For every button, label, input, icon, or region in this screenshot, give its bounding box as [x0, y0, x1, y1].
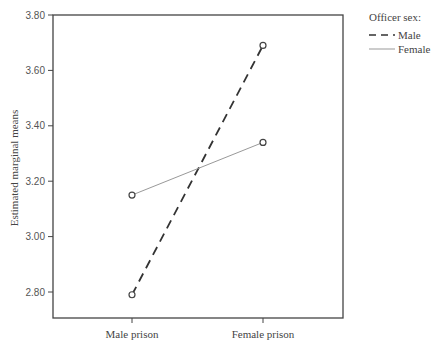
series-male — [129, 42, 266, 297]
y-tick-label: 2.80 — [26, 287, 46, 298]
y-tick-label: 3.60 — [26, 65, 46, 76]
legend-title: Officer sex: — [369, 11, 421, 23]
interaction-line-chart: 2.803.003.203.403.603.80 Male prisonFema… — [0, 0, 443, 354]
legend-female-label: Female — [398, 43, 430, 55]
series-line — [132, 142, 263, 195]
legend-male-label: Male — [398, 29, 421, 41]
data-point-marker — [260, 42, 266, 48]
plot-border — [53, 15, 343, 318]
y-tick-label: 3.20 — [26, 176, 46, 187]
legend: Officer sex: Male Female — [369, 11, 430, 55]
plot-frame — [53, 15, 343, 318]
y-tick-label: 3.80 — [26, 10, 46, 21]
series-layer — [129, 42, 266, 297]
x-axis: Male prisonFemale prison — [106, 318, 295, 340]
x-tick-label: Male prison — [106, 328, 159, 340]
y-axis: 2.803.003.203.403.603.80 — [26, 10, 53, 298]
data-point-marker — [129, 292, 135, 298]
y-axis-title: Estimated marginal means — [8, 110, 20, 227]
x-tick-label: Female prison — [232, 328, 295, 340]
y-tick-label: 3.00 — [26, 231, 46, 242]
y-tick-label: 3.40 — [26, 120, 46, 131]
data-point-marker — [129, 192, 135, 198]
series-female — [129, 139, 266, 198]
data-point-marker — [260, 139, 266, 145]
series-line — [132, 45, 263, 294]
